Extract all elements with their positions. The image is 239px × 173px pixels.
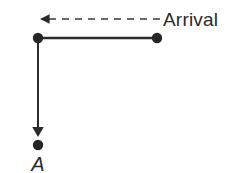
corner-node	[33, 33, 43, 43]
right-node	[152, 33, 162, 43]
arrival-label: Arrival	[163, 9, 218, 30]
diagram-canvas: Arrival A	[0, 0, 239, 173]
arrival-path-diagram: Arrival A	[0, 0, 239, 173]
node-a-label: A	[30, 153, 44, 173]
node-a-dot	[33, 140, 43, 150]
